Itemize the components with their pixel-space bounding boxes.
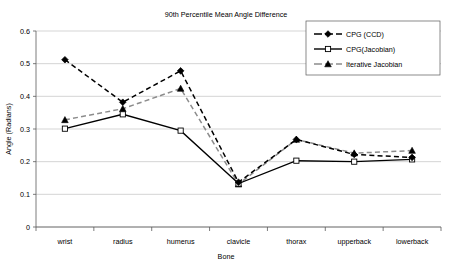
y-axis-tick-label: 0.6 [20, 27, 30, 36]
x-axis-tick-marks [36, 227, 441, 231]
y-axis-title: Angle (Radians) [4, 103, 13, 155]
series-1 [62, 56, 416, 185]
data-point-square [120, 112, 125, 117]
x-axis-tick-label: wrist [57, 237, 73, 246]
x-axis-title-group: Bone [218, 252, 235, 261]
data-series-layer [62, 56, 416, 187]
x-axis-tick-label: lowerback [396, 237, 429, 246]
series-3 [62, 85, 416, 187]
y-axis-tick-label: 0.1 [20, 190, 30, 199]
data-point-square [62, 126, 67, 131]
y-axis-title-group: Angle (Radians) [4, 103, 13, 155]
series-2 [62, 112, 414, 186]
data-point-square [294, 158, 299, 163]
x-axis-tick-label: radius [113, 237, 133, 246]
legend-label: CPG(Jacobian) [346, 45, 395, 54]
series-line [65, 60, 412, 183]
y-axis-tick-label: 0 [26, 223, 30, 232]
data-point-square [325, 46, 330, 51]
x-axis-tick-label: thorax [286, 237, 306, 246]
series-line [65, 88, 412, 184]
x-axis-title: Bone [218, 252, 235, 261]
x-axis-tick-label: upperback [337, 237, 371, 246]
chart-title-group: 90th Percentile Mean Angle Difference [165, 10, 288, 19]
chart-title: 90th Percentile Mean Angle Difference [165, 10, 288, 19]
x-axis-tick-label: clavicle [227, 237, 251, 246]
legend-label: Iterative Jacobian [346, 60, 402, 69]
y-axis-tick-label: 0.4 [20, 92, 30, 101]
x-axis-tick-label: humerus [167, 237, 195, 246]
y-axis-tick-label: 0.2 [20, 157, 30, 166]
series-line [65, 114, 412, 183]
y-axis-tick-labels: 00.10.20.30.40.50.6 [20, 27, 30, 232]
data-point-diamond [177, 68, 184, 75]
chart-container: 90th Percentile Mean Angle Difference 00… [0, 0, 453, 266]
legend-label: CPG (CCD) [346, 30, 384, 39]
x-axis-tick-labels: wristradiushumerusclaviclethoraxupperbac… [57, 237, 429, 246]
chart-legend: CPG (CCD)CPG(Jacobian)Iterative Jacobian [306, 21, 440, 75]
data-point-square [178, 128, 183, 133]
y-axis-tick-label: 0.3 [20, 125, 30, 134]
data-point-square [352, 159, 357, 164]
line-chart: 90th Percentile Mean Angle Difference 00… [0, 0, 453, 266]
data-point-triangle [177, 85, 184, 91]
y-axis-tick-label: 0.5 [20, 59, 30, 68]
